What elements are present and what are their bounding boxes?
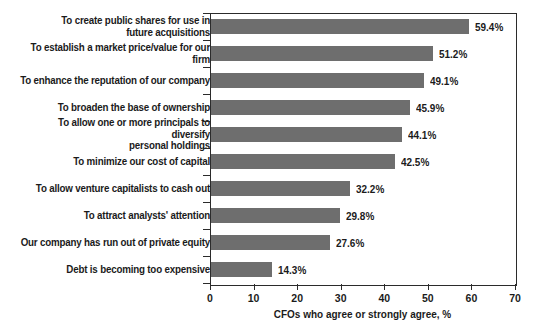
category-label: To allow venture capitalists to cash out [19, 183, 210, 195]
chart-row: Our company has run out of private equit… [0, 229, 538, 256]
category-tick [203, 229, 210, 230]
category-tick [203, 13, 210, 14]
x-axis-tick-label: 10 [234, 292, 274, 304]
category-tick [203, 67, 210, 68]
category-tick [203, 148, 210, 149]
category-label: To establish a market price/value for ou… [19, 42, 210, 65]
category-label: Debt is becoming too expensive [19, 264, 210, 276]
chart-row: To minimize our cost of capital42.5% [0, 148, 538, 175]
x-axis-tick [254, 284, 255, 290]
bar-value-label: 44.1% [408, 129, 436, 141]
chart-row: To attract analysts' attention29.8% [0, 202, 538, 229]
category-label: To minimize our cost of capital [19, 156, 210, 168]
bar-track: 49.1% [210, 67, 538, 94]
bar [210, 46, 433, 61]
category-label: To enhance the reputation of our company [19, 75, 210, 87]
chart-row: To allow one or more principals to diver… [0, 121, 538, 148]
chart-row: To enhance the reputation of our company… [0, 67, 538, 94]
chart-row: To create public shares for use in futur… [0, 13, 538, 40]
category-tick [203, 40, 210, 41]
category-tick [203, 121, 210, 122]
bar [210, 208, 340, 223]
bar-value-label: 51.2% [439, 48, 467, 60]
x-axis-tick [384, 284, 385, 290]
x-axis-tick-label: 20 [277, 292, 317, 304]
bar-track: 32.2% [210, 175, 538, 202]
x-axis-tick-label: 60 [451, 292, 491, 304]
x-axis-tick [471, 284, 472, 290]
x-axis-tick [210, 284, 211, 290]
bar [210, 19, 469, 34]
bar-track: 27.6% [210, 229, 538, 256]
chart-row: Debt is becoming too expensive14.3% [0, 256, 538, 283]
category-tick [203, 175, 210, 176]
x-axis-tick-label: 40 [364, 292, 404, 304]
bar-track: 44.1% [210, 121, 538, 148]
bar-value-label: 14.3% [278, 264, 306, 276]
bar-value-label: 42.5% [401, 156, 429, 168]
bar [210, 235, 330, 250]
bar [210, 181, 350, 196]
x-axis-tick-label: 70 [495, 292, 535, 304]
category-tick [203, 94, 210, 95]
category-tick [203, 256, 210, 257]
bar-track: 51.2% [210, 40, 538, 67]
bar-track: 45.9% [210, 94, 538, 121]
x-axis-tick-label: 50 [408, 292, 448, 304]
bar-value-label: 29.8% [346, 210, 374, 222]
bar [210, 73, 424, 88]
category-label: Our company has run out of private equit… [19, 237, 210, 249]
x-axis-tick [341, 284, 342, 290]
bar-value-label: 27.6% [336, 237, 364, 249]
category-tick [203, 202, 210, 203]
x-axis-tick-label: 30 [321, 292, 361, 304]
bar-track: 14.3% [210, 256, 538, 283]
bar-track: 29.8% [210, 202, 538, 229]
chart-row: To establish a market price/value for ou… [0, 40, 538, 67]
bar-chart: To create public shares for use in futur… [0, 0, 538, 330]
bar-value-label: 45.9% [416, 102, 444, 114]
category-label: To allow one or more principals to diver… [19, 117, 210, 152]
category-label: To attract analysts' attention [19, 210, 210, 222]
category-label: To create public shares for use in futur… [19, 15, 210, 38]
bar-value-label: 49.1% [430, 75, 458, 87]
chart-row: To allow venture capitalists to cash out… [0, 175, 538, 202]
x-axis-tick-label: 0 [190, 292, 230, 304]
x-axis-tick [428, 284, 429, 290]
category-label: To broaden the base of ownership [19, 102, 210, 114]
x-axis-tick [297, 284, 298, 290]
x-axis-title: CFOs who agree or strongly agree, % [218, 308, 508, 320]
bar [210, 127, 402, 142]
bar-value-label: 32.2% [356, 183, 384, 195]
x-axis-tick [515, 284, 516, 290]
bar [210, 100, 410, 115]
bar-value-label: 59.4% [475, 21, 503, 33]
bar [210, 154, 395, 169]
bar [210, 262, 272, 277]
bar-track: 59.4% [210, 13, 538, 40]
chart-rows: To create public shares for use in futur… [0, 13, 538, 283]
category-tick [203, 283, 210, 284]
bar-track: 42.5% [210, 148, 538, 175]
